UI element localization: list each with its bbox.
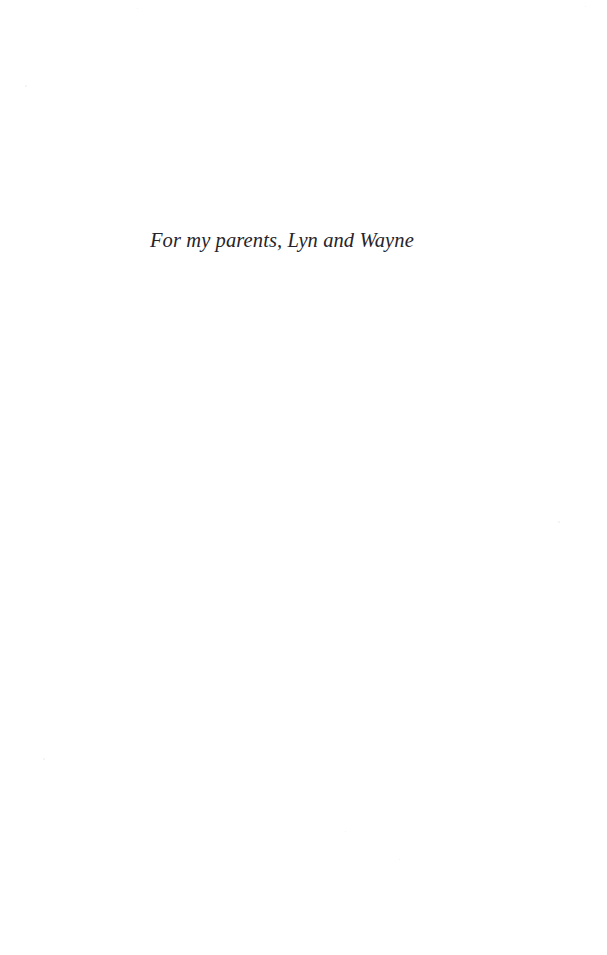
dedication-block: For my parents, Lyn and Wayne: [0, 0, 607, 955]
dedication-text: For my parents, Lyn and Wayne: [150, 228, 414, 252]
page-canvas: For my parents, Lyn and Wayne: [0, 0, 607, 955]
